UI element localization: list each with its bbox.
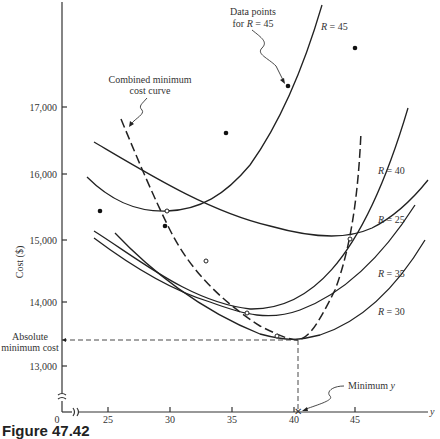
combined-minimum-cost-curve bbox=[121, 119, 361, 340]
label-r30: R = 30 bbox=[377, 306, 405, 317]
label-r45: R = 45 bbox=[320, 21, 348, 32]
data-points-arrow-icon bbox=[280, 78, 285, 84]
x-tick-45: 45 bbox=[350, 414, 360, 425]
x-axis bbox=[62, 407, 428, 416]
absolute-min-annotation-line1: Absolute bbox=[12, 331, 49, 342]
y-tick-15000: 15,000 bbox=[30, 235, 58, 246]
figure-label: Figure 47.42 bbox=[2, 424, 90, 438]
combined-leader bbox=[131, 98, 147, 124]
curve-r35 bbox=[115, 233, 425, 339]
minimum-y-leader bbox=[306, 386, 344, 409]
curve-r45 bbox=[87, 5, 322, 211]
y-tick-13000: 13,000 bbox=[30, 361, 58, 372]
x-axis-label: y bbox=[429, 406, 435, 417]
minimum-y-marker-icon: ✕ bbox=[294, 406, 302, 417]
data-points-leader bbox=[252, 30, 283, 80]
x-tick-35: 35 bbox=[227, 414, 237, 425]
intersection-markers bbox=[165, 209, 352, 338]
y-axis-label: Cost ($) bbox=[14, 246, 26, 279]
data-points-annotation-line2: for R = 45 bbox=[233, 18, 274, 29]
absolute-min-annotation-line2: minimum cost bbox=[1, 342, 59, 353]
minimum-y-annotation: Minimum y bbox=[348, 380, 396, 391]
minimum-y-arrow-icon bbox=[302, 407, 308, 411]
y-axis bbox=[58, 2, 67, 412]
x-tick-25: 25 bbox=[103, 414, 113, 425]
combined-annotation-line1: Combined minimum bbox=[108, 74, 191, 85]
label-r40: R = 40 bbox=[377, 165, 405, 176]
y-tick-16000: 16,000 bbox=[30, 169, 58, 180]
label-r25: R = 25 bbox=[377, 214, 405, 225]
data-points-annotation-line1: Data points bbox=[230, 6, 276, 17]
combined-annotation-line2: cost curve bbox=[130, 85, 171, 96]
label-r35: R = 35 bbox=[377, 268, 405, 279]
y-tick-14000: 14,000 bbox=[30, 297, 58, 308]
y-tick-17000: 17,000 bbox=[30, 102, 58, 113]
x-tick-30: 30 bbox=[165, 414, 175, 425]
